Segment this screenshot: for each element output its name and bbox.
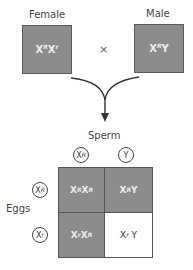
punnett-cell-xrxr-hetero: XrXR <box>59 213 105 257</box>
punnett-cell-xry-recessive: Xr Y <box>105 213 152 257</box>
egg-allele-xr-dominant: XR <box>32 182 48 198</box>
eggs-label: Eggs <box>6 204 30 214</box>
sperm-label: Sperm <box>88 131 121 141</box>
punnett-square: XRXR XRY XrXR Xr Y <box>58 167 153 258</box>
egg-allele-xr-recessive: Xr <box>32 227 48 243</box>
sperm-allele-xr: XR <box>73 147 89 163</box>
punnett-cell-xrxr: XRXR <box>59 168 105 213</box>
sperm-allele-y: Y <box>118 147 134 163</box>
punnett-cell-xry: XRY <box>105 168 152 213</box>
